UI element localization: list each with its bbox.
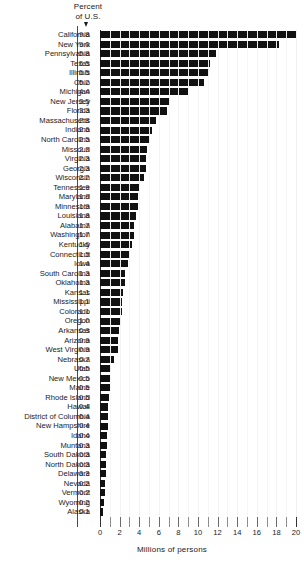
bar (100, 79, 204, 86)
bar (100, 432, 107, 439)
x-tick-label: 8 (168, 528, 188, 538)
chart-row: Alabama1.7 (0, 221, 304, 231)
bar (100, 193, 138, 200)
percent-value: 0.3 (79, 450, 97, 460)
chart-row: Kansas1.1 (0, 288, 304, 298)
value-column-header-line1: Percent (66, 2, 110, 12)
percent-value: 0.4 (79, 431, 97, 441)
bar (100, 365, 111, 372)
percent-value: 1.5 (79, 250, 97, 260)
bar (100, 31, 296, 38)
bar (100, 337, 118, 344)
chart-row: Minnesota1.9 (0, 202, 304, 212)
chart-row: North Carolina2.5 (0, 135, 304, 145)
bar (100, 241, 132, 248)
percent-value: 0.2 (79, 488, 97, 498)
percent-value: 2.3 (79, 164, 97, 174)
percent-value: 2.2 (79, 173, 97, 183)
chart-row: District of Columbia0.4 (0, 412, 304, 422)
chart-row: New York9.0 (0, 40, 304, 50)
x-tick-label: 16 (247, 528, 267, 538)
bar (100, 222, 134, 229)
percent-value: 1.1 (79, 307, 97, 317)
chart-row: South Carolina1.3 (0, 269, 304, 279)
chart-row: Utah0.5 (0, 364, 304, 374)
chart-row: Arizona0.9 (0, 336, 304, 346)
percent-value: 0.3 (79, 441, 97, 451)
chart-row: Massachusetts2.8 (0, 116, 304, 126)
percent-value: 1.9 (79, 202, 97, 212)
chart-row: New Jersey3.5 (0, 97, 304, 107)
bar (100, 232, 134, 239)
x-tick-label: 18 (266, 528, 286, 538)
percent-value: 2.8 (79, 116, 97, 126)
bar (100, 279, 125, 286)
bar (100, 346, 118, 353)
chart-row: Texas5.5 (0, 59, 304, 69)
bar (100, 327, 119, 334)
bar (100, 298, 122, 305)
percent-value: 0.9 (79, 336, 97, 346)
x-tick-label: 6 (149, 528, 169, 538)
chart-row: Arkansas0.9 (0, 326, 304, 336)
percent-value: 9.0 (79, 40, 97, 50)
chart-row: Mississippi1.1 (0, 297, 304, 307)
bar (100, 413, 108, 420)
chart-row: Wisconsin2.2 (0, 173, 304, 183)
chart-row: Louisiana1.8 (0, 211, 304, 221)
percent-value: 1.3 (79, 278, 97, 288)
percent-value: 0.5 (79, 383, 97, 393)
chart-row: Delaware0.3 (0, 469, 304, 479)
chart-row: Michigan4.4 (0, 87, 304, 97)
chart-row: Connecticut1.5 (0, 250, 304, 260)
percent-value: 1.4 (79, 259, 97, 269)
bar (100, 174, 144, 181)
chart-row: Illinois5.5 (0, 68, 304, 78)
bar (100, 88, 188, 95)
bar (100, 212, 136, 219)
chart-row: Oregon1.0 (0, 316, 304, 326)
bar (100, 184, 139, 191)
bar (100, 107, 167, 114)
percent-value: 1.0 (79, 316, 97, 326)
percent-value: 2.3 (79, 145, 97, 155)
percent-value: 0.4 (79, 402, 97, 412)
chart-row: Iowa1.4 (0, 259, 304, 269)
x-tick-label: 0 (90, 528, 110, 538)
bar (100, 136, 150, 143)
chart-row: South Dakota0.3 (0, 450, 304, 460)
percent-value: 1.6 (79, 240, 97, 250)
chart-row: Georgia2.3 (0, 164, 304, 174)
chart-row: Rhode Island0.5 (0, 393, 304, 403)
bar (100, 117, 156, 124)
chart-row: Wyoming0.2 (0, 498, 304, 508)
x-axis-label-text: Millions of persons (137, 545, 207, 554)
bar (100, 41, 279, 48)
percent-value: 0.4 (79, 412, 97, 422)
chart-row: Virginia2.3 (0, 154, 304, 164)
percent-value: 0.2 (79, 498, 97, 508)
chart-row: Colorado1.1 (0, 307, 304, 317)
percent-value: 5.5 (79, 68, 97, 78)
bar (100, 155, 146, 162)
percent-value: 1.9 (79, 192, 97, 202)
chart-row: Vermont0.2 (0, 488, 304, 498)
percent-value: 5.5 (79, 59, 97, 69)
percent-value: 3.3 (79, 106, 97, 116)
chart-row: Kentucky1.6 (0, 240, 304, 250)
percent-value: 0.5 (79, 374, 97, 384)
bar (100, 499, 104, 506)
x-tick-label: 20 (286, 528, 304, 538)
percent-value: 0.5 (79, 393, 97, 403)
x-tick-label: 12 (208, 528, 228, 538)
bar (100, 127, 152, 134)
chart-row: Missouri2.3 (0, 145, 304, 155)
percent-value: 2.3 (79, 154, 97, 164)
bar (100, 289, 123, 296)
chart-row: North Dakota0.3 (0, 460, 304, 470)
chart-row: Washington1.7 (0, 230, 304, 240)
bar (100, 308, 122, 315)
chart-row: California9.8 (0, 30, 304, 40)
bar (100, 98, 170, 105)
percent-value: 0.4 (79, 421, 97, 431)
